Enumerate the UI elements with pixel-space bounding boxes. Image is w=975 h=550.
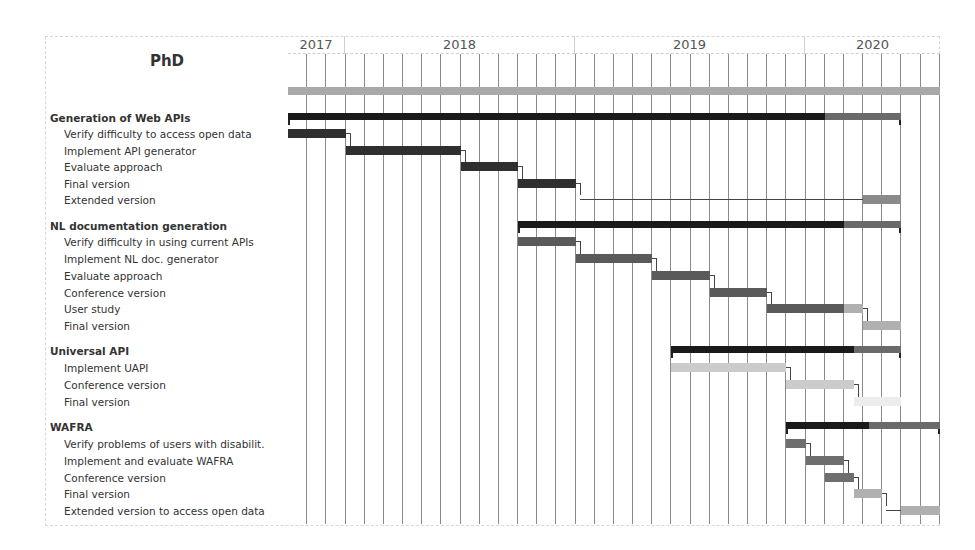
gantt-chart-area: 2017 2018 2019 2020 [288,36,940,524]
task-bar [461,162,518,171]
task-bar [518,237,576,246]
chart-title: PhD [46,52,288,70]
group-summary-bar [786,422,940,429]
month-gridline [920,54,921,524]
task-bar [901,506,940,515]
task-label: Implement API generator [64,144,196,158]
dependency-connector-line [580,199,863,200]
month-gridline [575,54,576,524]
task-label: Final version [64,395,130,409]
summary-end-tick [899,228,901,233]
month-gridline [402,54,403,524]
task-label: Final version [64,319,130,333]
dependency-connector [863,308,868,321]
task-bar [786,439,806,448]
task-label: Extended version to access open data [64,504,265,518]
summary-end-tick [938,429,940,434]
task-bar [825,473,854,482]
task-bar [346,146,461,155]
month-gridline [421,54,422,524]
dependency-connector-line [886,510,901,511]
month-gridline [440,54,441,524]
month-gridline [364,54,365,524]
group-summary-bar [671,346,901,353]
dependency-connector [576,241,581,254]
task-label-column: PhD Generation of Web APIs Verify diffic… [46,36,288,524]
task-bar [863,321,901,330]
year-header-2019: 2019 [575,36,805,54]
task-label: Extended version [64,193,156,207]
summary-start-tick [518,228,520,233]
group-label-web-apis: Generation of Web APIs [50,111,190,125]
task-label: Final version [64,487,130,501]
month-gridline [594,54,595,524]
month-gridline [881,54,882,524]
month-gridline [939,54,940,524]
summary-start-tick [786,429,788,434]
dependency-connector [767,292,772,304]
task-label: Final version [64,177,130,191]
dependency-connector [652,258,657,271]
group-label-universal-api: Universal API [50,344,129,358]
month-gridline [862,54,863,524]
dependency-connector [518,166,523,179]
dependency-connector [710,275,715,288]
task-label: User study [64,302,120,316]
task-label: Verify difficulty in using current APIs [64,235,254,249]
task-label: Conference version [64,471,166,485]
task-bar [767,304,863,313]
task-label: Implement and evaluate WAFRA [64,454,233,468]
task-label: Verify problems of users with disabilit. [64,437,265,451]
task-label: Evaluate approach [64,269,162,283]
task-bar [854,397,901,406]
dependency-connector [461,150,466,162]
dependency-connector [854,384,859,397]
month-gridline [345,54,346,524]
task-bar [288,129,346,138]
group-summary-bar [288,113,901,120]
month-gridline [325,54,326,524]
month-gridline [690,54,691,524]
task-label: Implement NL doc. generator [64,252,219,266]
task-label: Verify difficulty to access open data [64,127,252,141]
month-gridline [479,54,480,524]
month-gridline [613,54,614,524]
task-bar [671,363,786,372]
task-bar [710,288,767,297]
year-header-2020: 2020 [805,36,940,54]
summary-end-tick [899,120,901,125]
task-label: Conference version [64,378,166,392]
group-summary-bar [518,221,901,228]
task-bar [854,489,882,498]
task-bar [786,380,854,389]
dependency-connector [346,133,351,146]
task-bar [576,254,652,263]
task-label: Implement UAPI [64,361,148,375]
summary-start-tick [671,353,673,358]
summary-end-tick [899,353,901,358]
month-gridline [383,54,384,524]
task-bar [806,456,844,465]
month-gridline [517,54,518,524]
summary-start-tick [288,120,290,125]
month-gridline [306,54,307,524]
group-label-nl-doc: NL documentation generation [50,219,227,233]
group-label-wafra: WAFRA [50,420,93,434]
month-gridline [824,54,825,524]
dependency-connector [576,183,581,195]
month-gridline [785,54,786,524]
task-bar [863,195,901,204]
task-label: Conference version [64,286,166,300]
dependency-connector [854,477,859,489]
year-header-2018: 2018 [345,36,575,54]
month-gridline [555,54,556,524]
month-gridline [460,54,461,524]
month-gridline [536,54,537,524]
month-gridline [670,54,671,524]
phd-overall-bar [288,87,940,95]
dependency-connector [844,460,849,473]
month-gridline [843,54,844,524]
task-bar [518,179,576,188]
month-gridline [632,54,633,524]
task-bar [652,271,710,280]
